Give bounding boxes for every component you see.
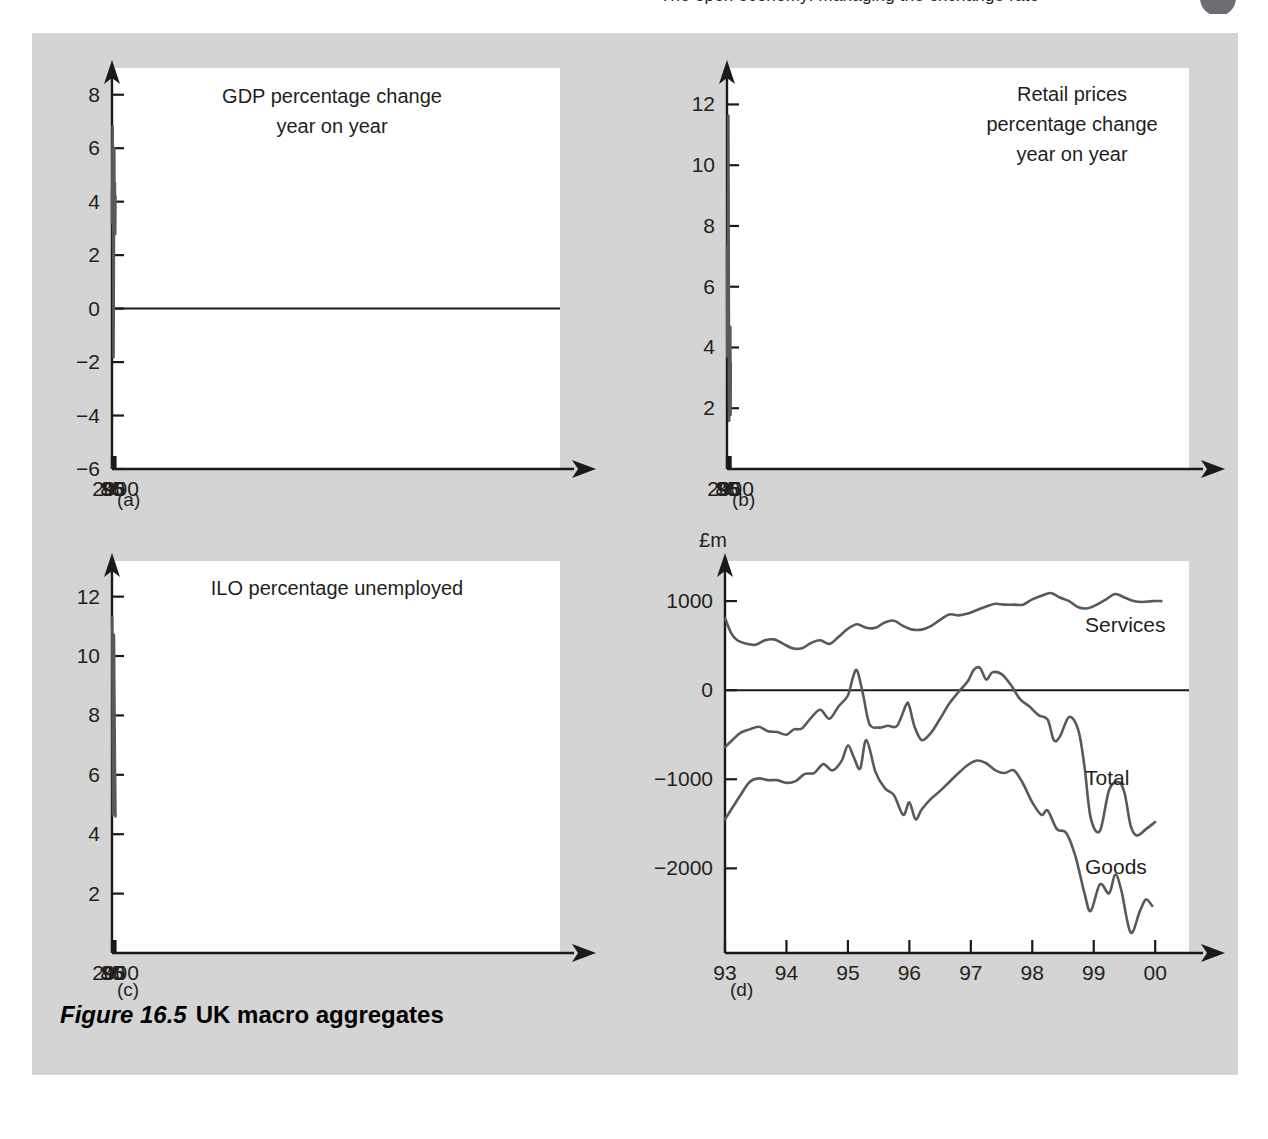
y-axis-unit-label: £m [699, 529, 727, 551]
x-axis-tick-label: 99 [1082, 961, 1105, 984]
series-label-services: Services [1085, 613, 1166, 636]
x-axis-tick-label: 98 [1021, 961, 1044, 984]
y-axis-tick-label: 1000 [666, 589, 713, 612]
figure-panel: 86420−2−4−68590952000GDP percentage chan… [32, 33, 1238, 1075]
figure-caption-text: UK macro aggregates [187, 1001, 444, 1028]
y-axis-tick-label: −2000 [654, 856, 713, 879]
chart-title-line: percentage change [986, 113, 1157, 135]
figure-caption-number: Figure 16.5 [60, 1001, 187, 1028]
y-axis-tick-label: 2 [703, 396, 715, 419]
x-axis-tick-label: 96 [898, 961, 921, 984]
chart-title-line: Retail prices [1017, 83, 1127, 105]
y-axis-tick-label: 12 [692, 92, 715, 115]
running-head: The open economy: managing the exchange … [0, 0, 1268, 14]
y-axis-tick-label: 10 [692, 153, 715, 176]
x-axis-tick-label: 97 [959, 961, 982, 984]
x-axis-arrow [1201, 460, 1225, 478]
x-axis-tick-label: 00 [1144, 961, 1167, 984]
panel-letter-d: (d) [730, 979, 753, 1001]
y-axis-tick-label: 4 [703, 335, 715, 358]
chart-title-line: year on year [1016, 143, 1128, 165]
y-axis-tick-label: 6 [703, 275, 715, 298]
y-axis-tick-label: 8 [703, 214, 715, 237]
x-axis-tick-label: 94 [775, 961, 799, 984]
x-axis-arrow [1201, 944, 1225, 962]
chart-d-svg: 10000−1000−20009394959697989900£mBalance… [32, 523, 1238, 993]
page-number-badge [1200, 0, 1236, 14]
series-label-total: Total [1085, 766, 1129, 789]
running-head-text: The open economy: managing the exchange … [660, 0, 1039, 6]
y-axis-tick-label: 0 [701, 678, 713, 701]
panel-letter-b: (b) [732, 489, 755, 511]
chart-b-svg: 121086428590952000Retail pricespercentag… [32, 33, 1238, 503]
data-series-line [725, 667, 1155, 835]
figure-page: The open economy: managing the exchange … [0, 0, 1268, 1139]
y-axis-tick-label: −1000 [654, 767, 713, 790]
figure-caption: Figure 16.5UK macro aggregates [60, 1001, 444, 1029]
x-axis-tick-label: 95 [836, 961, 859, 984]
series-label-goods: Goods [1085, 855, 1147, 878]
